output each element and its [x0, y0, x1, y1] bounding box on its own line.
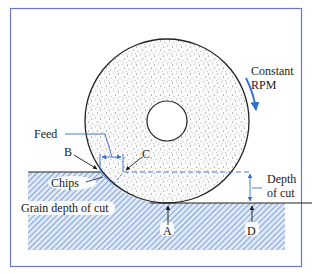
- label-constant-rpm-line2: RPM: [251, 78, 277, 92]
- label-d: D: [247, 224, 256, 238]
- label-constant-rpm: Constant: [251, 64, 294, 78]
- label-grain-depth-of-cut: Grain depth of cut: [21, 201, 109, 215]
- label-a: A: [163, 224, 172, 238]
- wheel-hub: [147, 101, 187, 141]
- label-b: B: [64, 145, 72, 159]
- label-depth-of-cut-line2: of cut: [267, 186, 295, 200]
- grinding-diagram: Constant RPM Feed B C Chips Depth of cut…: [0, 0, 317, 274]
- label-feed: Feed: [34, 127, 57, 141]
- label-c: C: [142, 147, 150, 161]
- label-chips: Chips: [51, 176, 79, 190]
- label-depth-of-cut: Depth: [267, 172, 296, 186]
